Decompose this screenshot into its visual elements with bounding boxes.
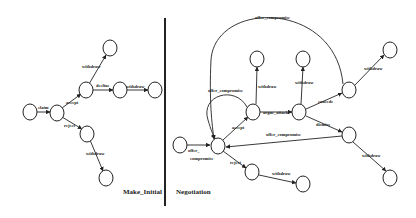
label-withdraw-5: withdraw bbox=[272, 171, 291, 176]
panel-title-make-initial: Make_Initial bbox=[123, 188, 162, 196]
edge-withdraw-1 bbox=[256, 67, 257, 104]
state-node-claimed bbox=[50, 105, 64, 121]
state-node-withdraw-top bbox=[103, 40, 117, 56]
label-claim: claim bbox=[38, 105, 49, 110]
label-reject: reject bbox=[64, 123, 75, 128]
label-offer-compromise-in-1: offer_ bbox=[188, 148, 200, 153]
edge-withdraw-top bbox=[89, 55, 106, 84]
label-withdraw-4: withdraw bbox=[362, 153, 381, 158]
label-withdraw-2: withdraw bbox=[295, 80, 314, 85]
state-node-withdraw-2 bbox=[296, 51, 310, 67]
state-node-withdraw-4 bbox=[383, 170, 397, 186]
label-offer-compromise-back: offer_compromise bbox=[266, 132, 301, 137]
state-node-withdraw-5 bbox=[296, 176, 310, 192]
state-node-withdraw-bottom bbox=[99, 170, 113, 186]
label-withdraw-right: withdraw bbox=[126, 84, 145, 89]
label-offer-compromise-in-2: compromise bbox=[190, 156, 213, 161]
label-offer-compromise-loop: offer_compromise bbox=[208, 88, 243, 93]
make-initial-panel: claim accept reject withdraw decline wit… bbox=[23, 40, 162, 196]
label-argue-attack: argue_attack bbox=[263, 110, 289, 115]
state-diagram: claim accept reject withdraw decline wit… bbox=[0, 0, 416, 218]
label-withdraw-top: withdraw bbox=[82, 64, 101, 69]
label-withdraw-1: withdraw bbox=[258, 84, 277, 89]
state-node-start bbox=[173, 137, 187, 153]
state-node-rejected bbox=[80, 126, 94, 142]
state-node-hub bbox=[211, 138, 225, 154]
label-concede: concede bbox=[318, 99, 333, 104]
state-node-withdraw-1 bbox=[250, 51, 264, 67]
label-withdraw-3: withdraw bbox=[364, 66, 383, 71]
state-node-accepted bbox=[246, 104, 260, 120]
label-offer-compromise-arc: offer_compromise bbox=[255, 15, 290, 20]
edge-withdraw-bottom bbox=[259, 175, 296, 183]
label-accept: accept bbox=[232, 125, 245, 130]
label-reject: reject bbox=[230, 160, 241, 165]
label-accept: accept bbox=[66, 100, 79, 105]
state-node-declined bbox=[113, 82, 127, 98]
state-node-dismissed bbox=[342, 127, 356, 143]
state-node-accepted bbox=[79, 82, 93, 98]
state-node-attacked bbox=[292, 104, 306, 120]
edge-offer-compromise-arc bbox=[210, 18, 343, 139]
state-node-withdraw-right bbox=[148, 82, 162, 98]
state-node-conceded bbox=[342, 82, 356, 98]
panel-title-negotiation: Negotiation bbox=[176, 188, 211, 196]
state-node-start bbox=[23, 104, 37, 120]
state-node-rejected bbox=[245, 164, 259, 180]
edge-withdraw-2 bbox=[301, 67, 303, 104]
label-dismiss: dismiss bbox=[316, 122, 330, 127]
edge-offer-compromise-back bbox=[226, 136, 342, 147]
state-node-withdraw-3 bbox=[383, 42, 397, 58]
label-decline: decline bbox=[96, 83, 110, 88]
negotiation-panel: offer_ compromise accept reject withdraw… bbox=[173, 15, 397, 196]
label-withdraw-bottom: withdraw bbox=[86, 151, 105, 156]
